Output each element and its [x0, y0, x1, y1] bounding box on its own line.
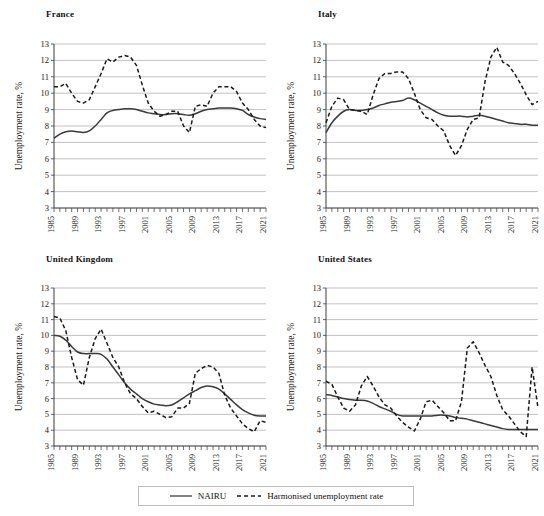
- x-tick-label: 2021: [530, 216, 540, 233]
- y-tick-label: 5: [45, 170, 49, 180]
- series-line-nairu: [326, 395, 538, 430]
- y-tick-label: 4: [45, 425, 50, 435]
- y-axis-title: Unemployment rate, %: [14, 323, 24, 411]
- solid-line-icon: [169, 492, 193, 500]
- series-line-harmonised: [326, 342, 538, 437]
- plot-italy: 3456789101112131985198919931997200120052…: [272, 0, 544, 248]
- x-tick-label: 2017: [234, 454, 244, 471]
- y-tick-label: 12: [41, 55, 50, 65]
- x-tick-label: 2021: [258, 216, 268, 233]
- y-tick-label: 4: [317, 425, 322, 435]
- y-tick-label: 7: [45, 378, 49, 388]
- y-tick-label: 3: [317, 203, 321, 213]
- x-tick-label: 2005: [164, 216, 174, 233]
- x-tick-label: 1997: [117, 454, 127, 471]
- panel-united-states: United States 34567891011121319851989199…: [272, 250, 544, 485]
- y-tick-label: 8: [45, 121, 49, 131]
- y-tick-label: 13: [41, 39, 50, 49]
- legend-entry-nairu: NAIRU: [169, 491, 227, 501]
- x-tick-label: 2021: [258, 454, 268, 471]
- x-tick-label: 1985: [46, 454, 56, 471]
- y-tick-label: 3: [317, 441, 321, 451]
- series-line-harmonised: [326, 47, 538, 155]
- y-tick-label: 5: [317, 409, 321, 419]
- y-tick-label: 11: [313, 315, 321, 325]
- plot-france: 3456789101112131985198919931997200120052…: [0, 0, 272, 248]
- x-tick-label: 2017: [506, 216, 516, 233]
- y-tick-label: 6: [45, 154, 49, 164]
- y-tick-label: 5: [45, 409, 49, 419]
- dashed-line-icon: [236, 492, 262, 500]
- panel-france: France 345678910111213198519891993199720…: [0, 0, 272, 248]
- x-tick-label: 1993: [93, 454, 103, 471]
- unemployment-nairu-figure: France 345678910111213198519891993199720…: [0, 0, 544, 516]
- x-tick-label: 1993: [365, 216, 375, 233]
- series-line-nairu: [54, 108, 266, 138]
- x-tick-label: 2005: [436, 216, 446, 233]
- y-tick-label: 10: [41, 88, 50, 98]
- y-tick-label: 8: [317, 362, 321, 372]
- x-tick-label: 2009: [187, 216, 197, 233]
- series-line-nairu: [326, 98, 538, 132]
- x-tick-label: 1989: [70, 216, 80, 233]
- y-tick-label: 7: [45, 137, 49, 147]
- x-tick-label: 1985: [46, 216, 56, 233]
- y-tick-label: 6: [45, 394, 49, 404]
- y-tick-label: 6: [317, 154, 321, 164]
- x-tick-label: 1989: [342, 216, 352, 233]
- x-tick-label: 2009: [187, 454, 197, 471]
- y-tick-label: 13: [313, 39, 322, 49]
- x-tick-label: 1989: [70, 454, 80, 471]
- y-tick-label: 9: [45, 105, 49, 115]
- series-line-harmonised: [54, 55, 266, 132]
- x-tick-label: 1993: [365, 454, 375, 471]
- legend-label-harmonised: Harmonised unemployment rate: [267, 491, 383, 501]
- x-tick-label: 2013: [211, 216, 221, 233]
- y-tick-label: 4: [317, 187, 322, 197]
- panel-italy: Italy 3456789101112131985198919931997200…: [272, 0, 544, 248]
- x-tick-label: 2001: [412, 216, 422, 233]
- x-tick-label: 2013: [211, 454, 221, 471]
- y-axis-title: Unemployment rate, %: [286, 323, 296, 411]
- y-tick-label: 12: [41, 299, 50, 309]
- y-tick-label: 10: [313, 88, 322, 98]
- y-tick-label: 9: [317, 105, 321, 115]
- x-tick-label: 2001: [140, 454, 150, 471]
- x-tick-label: 2009: [459, 216, 469, 233]
- y-axis-title: Unemployment rate, %: [14, 82, 24, 170]
- x-tick-label: 2013: [483, 216, 493, 233]
- x-tick-label: 2013: [483, 454, 493, 471]
- y-axis-title: Unemployment rate, %: [286, 82, 296, 170]
- legend: NAIRU Harmonised unemployment rate: [138, 486, 414, 506]
- legend-entry-harmonised: Harmonised unemployment rate: [236, 491, 383, 501]
- x-tick-label: 2017: [506, 454, 516, 471]
- plot-united-kingdom: 3456789101112131985198919931997200120052…: [0, 250, 272, 485]
- y-tick-label: 10: [41, 330, 50, 340]
- y-tick-label: 8: [45, 362, 49, 372]
- y-tick-label: 11: [41, 72, 49, 82]
- y-tick-label: 7: [317, 378, 321, 388]
- x-tick-label: 1985: [318, 216, 328, 233]
- y-tick-label: 12: [313, 299, 322, 309]
- x-tick-label: 1989: [342, 454, 352, 471]
- x-tick-label: 1985: [318, 454, 328, 471]
- y-tick-label: 11: [313, 72, 321, 82]
- x-tick-label: 2005: [164, 454, 174, 471]
- y-tick-label: 3: [45, 203, 49, 213]
- x-tick-label: 2005: [436, 454, 446, 471]
- x-tick-label: 1997: [389, 454, 399, 471]
- x-tick-label: 2001: [140, 216, 150, 233]
- y-tick-label: 10: [313, 330, 322, 340]
- x-tick-label: 1993: [93, 216, 103, 233]
- x-tick-label: 2021: [530, 454, 540, 471]
- y-tick-label: 7: [317, 137, 321, 147]
- y-tick-label: 6: [317, 394, 321, 404]
- x-tick-label: 2017: [234, 216, 244, 233]
- x-tick-label: 1997: [117, 216, 127, 233]
- y-tick-label: 3: [45, 441, 49, 451]
- x-tick-label: 2009: [459, 454, 469, 471]
- y-tick-label: 5: [317, 170, 321, 180]
- x-tick-label: 1997: [389, 216, 399, 233]
- y-tick-label: 13: [41, 283, 50, 293]
- panel-united-kingdom: United Kingdom 3456789101112131985198919…: [0, 250, 272, 485]
